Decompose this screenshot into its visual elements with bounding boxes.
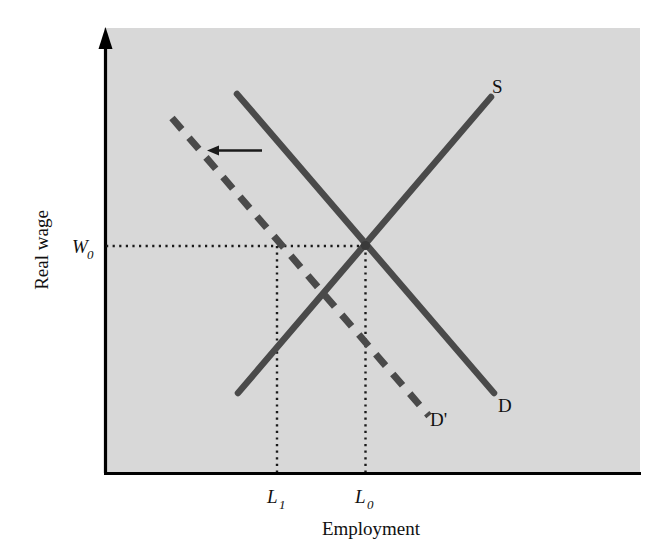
l0-tick-base: L	[354, 486, 366, 507]
demand-shifted-curve-label: D'	[430, 409, 447, 430]
w0-tick-label: W 0	[72, 236, 94, 262]
l0-tick-label: L 0	[354, 486, 374, 512]
l1-tick-subscript: 1	[279, 497, 286, 512]
equilibrium-point	[361, 241, 370, 250]
diagram-canvas: S D D' W 0 L 1 L 0 Real wage Employment	[0, 0, 660, 551]
x-axis-title: Employment	[322, 518, 421, 539]
l0-tick-subscript: 0	[367, 497, 374, 512]
l1-tick-label: L 1	[266, 486, 286, 512]
l1-tick-base: L	[266, 486, 278, 507]
y-axis-title: Real wage	[31, 210, 52, 290]
labour-market-figure: S D D' W 0 L 1 L 0 Real wage Employment	[0, 0, 660, 551]
demand-curve-label: D	[498, 395, 512, 416]
w0-tick-subscript: 0	[87, 247, 94, 262]
supply-curve-label: S	[492, 76, 503, 97]
